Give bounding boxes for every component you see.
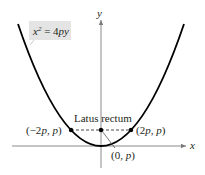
point-focus: [99, 128, 103, 132]
point-left-label: (−2p, p): [26, 124, 62, 137]
equation-leader-line: [30, 40, 34, 45]
y-axis-label: y: [96, 7, 102, 19]
point-right: [129, 128, 133, 132]
latus-rectum-label: Latus rectum: [74, 112, 132, 124]
x-axis-label: x: [189, 139, 195, 151]
parabola-diagram: y x x2 = 4py Latus rectum (−2p, p) (2p, …: [0, 0, 205, 175]
point-right-label: (2p, p): [136, 124, 166, 137]
point-left: [69, 128, 73, 132]
equation-label: x2 = 4py: [32, 25, 69, 37]
point-focus-label: (0, p): [111, 149, 135, 162]
